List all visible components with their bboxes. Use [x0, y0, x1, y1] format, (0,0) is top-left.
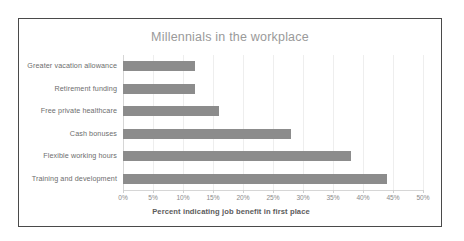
x-tick-mark	[423, 190, 424, 193]
x-tick-mark	[273, 190, 274, 193]
category-label-row: Greater vacation allowance	[19, 55, 123, 78]
category-label-row: Cash bonuses	[19, 123, 123, 146]
x-tick-label: 0%	[118, 194, 128, 201]
category-label-row: Flexible working hours	[19, 145, 123, 168]
bar	[123, 129, 291, 139]
bar	[123, 151, 351, 161]
category-label: Training and development	[32, 168, 117, 191]
category-axis: Greater vacation allowanceRetirement fun…	[19, 55, 123, 190]
category-label-row: Retirement funding	[19, 78, 123, 101]
bar	[123, 174, 387, 184]
x-tick-mark	[393, 190, 394, 193]
category-label-row: Free private healthcare	[19, 100, 123, 123]
x-tick-label: 10%	[176, 194, 189, 201]
plot-area: Greater vacation allowanceRetirement fun…	[19, 55, 443, 190]
chart-title: Millennials in the workplace	[19, 30, 441, 44]
x-tick-label: 15%	[206, 194, 219, 201]
x-tick-mark	[183, 190, 184, 193]
bar-row	[123, 145, 423, 168]
bar-row	[123, 55, 423, 78]
bar-row	[123, 168, 423, 191]
x-tick-label: 45%	[386, 194, 399, 201]
x-tick-mark	[213, 190, 214, 193]
x-tick-label: 5%	[148, 194, 158, 201]
category-label-row: Training and development	[19, 168, 123, 191]
x-axis: 0%5%10%15%20%25%30%35%40%45%50%	[123, 190, 423, 204]
x-tick-label: 50%	[416, 194, 429, 201]
bar-row	[123, 78, 423, 101]
bar-row	[123, 123, 423, 146]
category-label: Retirement funding	[54, 78, 117, 101]
bar	[123, 106, 219, 116]
x-tick-mark	[123, 190, 124, 193]
x-axis-title: Percent indicating job benefit in first …	[19, 207, 443, 216]
x-tick-label: 20%	[236, 194, 249, 201]
x-tick-label: 30%	[296, 194, 309, 201]
bar	[123, 61, 195, 71]
x-tick-mark	[363, 190, 364, 193]
x-tick-label: 25%	[266, 194, 279, 201]
x-tick-mark	[333, 190, 334, 193]
x-tick-label: 40%	[356, 194, 369, 201]
chart-container: Millennials in the workplace Greater vac…	[18, 18, 442, 227]
category-label: Greater vacation allowance	[27, 55, 117, 78]
x-tick-mark	[303, 190, 304, 193]
gridline-50	[423, 55, 424, 190]
x-tick-label: 35%	[326, 194, 339, 201]
bar-row	[123, 100, 423, 123]
x-tick-mark	[243, 190, 244, 193]
x-tick-mark	[153, 190, 154, 193]
category-label: Cash bonuses	[70, 123, 117, 146]
bar	[123, 84, 195, 94]
bars-area	[123, 55, 423, 190]
category-label: Free private healthcare	[41, 100, 117, 123]
category-label: Flexible working hours	[43, 145, 117, 168]
